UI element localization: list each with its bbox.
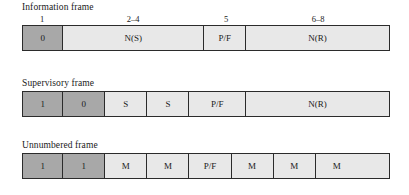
field-cell: M <box>316 154 358 178</box>
field-cell: S <box>147 92 189 116</box>
field-cell: N(R) <box>246 92 389 116</box>
field-cell: M <box>232 154 274 178</box>
bit-number-label: 1 <box>40 13 44 25</box>
bit-number-label: 6–8 <box>312 13 325 25</box>
unnumbered-frame-group: Unnumbered frame 11MMP/FMMM <box>22 140 390 179</box>
information-frame-bit-numbers: 12–456–8 <box>22 13 390 25</box>
field-cell: 0 <box>63 92 105 116</box>
field-cell: P/F <box>189 154 231 178</box>
field-cell: 1 <box>63 154 105 178</box>
field-cell: S <box>105 92 147 116</box>
field-cell: P/F <box>189 92 246 116</box>
bit-number-label: 5 <box>224 13 228 25</box>
unnumbered-frame-title: Unnumbered frame <box>22 140 390 151</box>
bit-number-label: 2–4 <box>127 13 140 25</box>
hdlc-control-field-diagram: Information frame 12–456–8 0N(S)P/FN(R) … <box>0 0 409 195</box>
field-cell: 1 <box>23 92 63 116</box>
supervisory-frame-fields: 10SSP/FN(R) <box>22 91 390 117</box>
information-frame-fields: 0N(S)P/FN(R) <box>22 25 390 51</box>
information-frame-title: Information frame <box>22 2 390 13</box>
field-cell: N(S) <box>63 26 204 50</box>
unnumbered-frame-fields: 11MMP/FMMM <box>22 153 390 179</box>
field-cell: N(R) <box>246 26 389 50</box>
information-frame-group: Information frame 12–456–8 0N(S)P/FN(R) <box>22 2 390 51</box>
supervisory-frame-title: Supervisory frame <box>22 78 390 89</box>
field-cell: M <box>105 154 147 178</box>
field-cell: 1 <box>23 154 63 178</box>
supervisory-frame-group: Supervisory frame 10SSP/FN(R) <box>22 78 390 117</box>
field-cell: P/F <box>204 26 246 50</box>
field-cell: M <box>147 154 189 178</box>
field-cell: M <box>274 154 316 178</box>
field-cell: 0 <box>23 26 63 50</box>
